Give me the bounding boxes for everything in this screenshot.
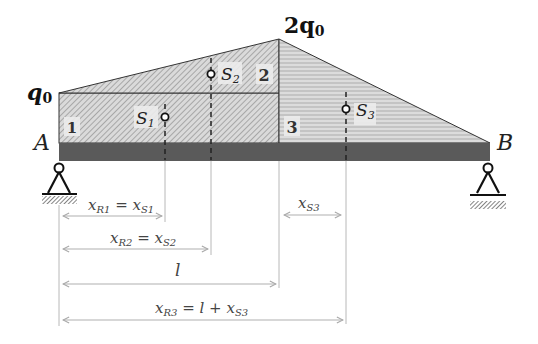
- beam: [59, 143, 490, 161]
- dim-label-xr1: xR1 = xS1: [88, 196, 154, 215]
- support-b-pin-icon: [470, 164, 506, 210]
- dim-label-xr3: xR3 = l + xS3: [155, 299, 248, 318]
- load-label-q0: q0: [27, 79, 52, 106]
- region-1-number: 1: [67, 119, 77, 137]
- support-a-pin-icon: [42, 164, 77, 205]
- dim-label-xr2: xR2 = xS2: [110, 229, 176, 248]
- support-b-label: B: [496, 130, 513, 155]
- centroid-s1-marker: [161, 113, 168, 120]
- load-region-2: [59, 39, 279, 93]
- centroid-s3-marker: [342, 105, 349, 112]
- support-a-label: A: [32, 130, 50, 155]
- load-region-3: [279, 39, 490, 143]
- beam-load-diagram: 1 2 3 S1 S2 S3 q0 2q0 A B: [0, 0, 538, 344]
- dim-label-xs3: xS3: [298, 194, 320, 213]
- load-label-2q0: 2q0: [284, 12, 325, 39]
- region-3-number: 3: [286, 118, 297, 137]
- region-2-number: 2: [258, 66, 269, 85]
- dim-label-l: l: [175, 260, 180, 280]
- centroid-s2-marker: [207, 70, 214, 77]
